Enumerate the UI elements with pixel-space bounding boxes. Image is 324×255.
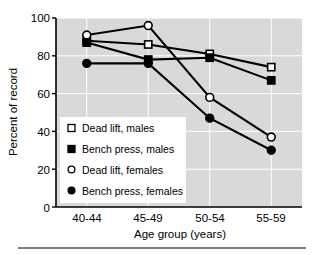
legend-marker-open-circle-icon [68, 166, 75, 173]
data-point-marker [145, 41, 152, 48]
legend-label-bench-press-females: Bench press, females [82, 185, 183, 197]
data-point-marker [267, 146, 275, 154]
legend-marker-open-square-icon [68, 125, 75, 132]
y-tick-label-0: 0 [44, 202, 50, 214]
chart-figure: 100 80 60 40 20 0 40-44 45-49 50-54 55-5… [0, 0, 324, 255]
data-point-marker [144, 59, 152, 67]
data-point-marker [83, 31, 91, 39]
y-tick-label-100: 100 [31, 12, 50, 24]
x-tick-label-40-44: 40-44 [72, 212, 102, 224]
legend-label-dead-lift-females: Dead lift, females [82, 164, 163, 176]
data-point-marker [83, 39, 90, 46]
data-point-marker [267, 133, 275, 141]
x-tick-label-50-54: 50-54 [195, 212, 225, 224]
data-point-marker [268, 77, 275, 84]
legend-marker-filled-square-icon [68, 146, 75, 153]
x-tick-label-55-59: 55-59 [256, 212, 285, 224]
legend-label-bench-press-males: Bench press, males [82, 143, 174, 155]
y-tick-label-20: 20 [37, 164, 50, 176]
data-point-marker [144, 22, 152, 30]
y-tick-label-80: 80 [37, 50, 50, 62]
legend: Dead lift, males Bench press, males Dead… [60, 117, 186, 203]
data-point-marker [206, 93, 214, 101]
y-tick-label-60: 60 [37, 88, 50, 100]
x-tick-label-45-49: 45-49 [133, 212, 162, 224]
y-tick-label-40: 40 [37, 126, 50, 138]
x-axis-title: Age group (years) [134, 228, 226, 240]
legend-marker-filled-circle-icon [68, 187, 75, 194]
data-point-marker [268, 64, 275, 71]
line-chart: 100 80 60 40 20 0 40-44 45-49 50-54 55-5… [0, 0, 324, 255]
y-axis-title: Percent of record [7, 68, 19, 156]
data-point-marker [206, 114, 214, 122]
data-point-marker [83, 59, 91, 67]
legend-label-dead-lift-males: Dead lift, males [82, 122, 154, 134]
data-point-marker [206, 54, 213, 61]
